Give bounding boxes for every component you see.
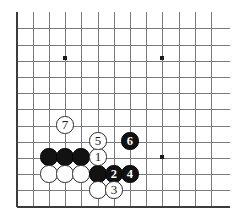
star-point-upper-right: [160, 56, 164, 60]
move-stone-3: 3: [105, 181, 122, 198]
stone-move-number: 4: [127, 168, 133, 181]
stone-white: [89, 181, 106, 198]
stone-move-number: 2: [111, 168, 117, 181]
stone-move-number: 6: [127, 135, 133, 148]
stone-move-number: 1: [95, 150, 102, 163]
move-stone-7: 7: [56, 116, 73, 133]
go-board-diagram: 1234567: [0, 0, 243, 224]
stone-white: [72, 165, 89, 182]
star-point-lower-right: [160, 155, 164, 159]
stone-move-number: 7: [62, 118, 69, 131]
move-stone-2: 2: [105, 165, 122, 182]
stone-black: [72, 148, 89, 165]
stone-white: [56, 165, 73, 182]
move-stone-5: 5: [89, 132, 106, 149]
star-points: [63, 56, 164, 159]
stone-black: [40, 148, 57, 165]
stone-move-number: 3: [111, 183, 118, 196]
move-stone-1: 1: [89, 148, 106, 165]
stone-move-number: 5: [95, 134, 102, 147]
move-stone-4: 4: [121, 165, 138, 182]
stone-black: [89, 165, 106, 182]
star-point-upper-left: [63, 56, 67, 60]
stone-black: [56, 148, 73, 165]
move-stone-6: 6: [121, 132, 138, 149]
stone-white: [40, 165, 57, 182]
